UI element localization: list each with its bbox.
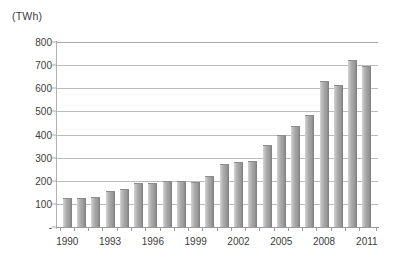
y-tick-label: 300 [0,152,52,163]
y-tick-mark [52,88,57,89]
gridline [57,111,378,112]
x-tick-mark [88,227,89,231]
x-tick-mark [202,227,203,231]
x-tick-mark [117,227,118,231]
x-tick-mark [259,227,260,231]
plot-area [57,42,378,227]
y-tick-label: 200 [0,175,52,186]
x-tick-mark [217,227,218,231]
gridline [57,181,378,182]
x-tick-mark [174,227,175,231]
x-tick-mark [145,227,146,231]
x-tick-label: 2011 [356,236,378,247]
y-tick-mark [52,157,57,158]
bar [191,182,200,227]
x-tick-mark [131,227,132,231]
x-tick-mark [231,227,232,231]
gridline [57,65,378,66]
x-tick-label: 1990 [56,236,78,247]
bar [320,81,329,227]
bar [106,191,115,227]
x-tick-label: 1993 [99,236,121,247]
bar [334,85,343,227]
x-tick-mark [245,227,246,231]
bar [177,181,186,227]
bar [291,126,300,227]
bar [134,183,143,227]
bar [163,181,172,227]
bar [234,162,243,227]
x-tick-mark [331,227,332,231]
bar [305,115,314,227]
y-tick-mark [52,42,57,43]
gridline [57,135,378,136]
y-tick-mark [52,134,57,135]
y-tick-label: 400 [0,129,52,140]
x-tick-mark [288,227,289,231]
x-tick-mark [188,227,189,231]
bar [120,189,129,227]
bar [362,66,371,227]
y-axis-tick-labels: 800700600500400300200100- [0,0,52,259]
bar [263,145,272,227]
x-tick-mark [302,227,303,231]
bar-chart: (TWh) 800700600500400300200100- 19901993… [0,0,394,259]
x-tick-label: 1999 [185,236,207,247]
y-tick-label: 500 [0,106,52,117]
y-tick-label: - [0,222,52,233]
bar [91,197,100,227]
bar [348,60,357,228]
x-tick-mark [102,227,103,231]
bar [220,164,229,227]
x-tick-mark [160,227,161,231]
y-tick-label: 800 [0,37,52,48]
gridline [57,42,378,43]
x-tick-mark [316,227,317,231]
bar [248,161,257,227]
x-tick-label: 1996 [142,236,164,247]
y-tick-mark [52,203,57,204]
x-tick-label: 2002 [227,236,249,247]
y-tick-mark [52,180,57,181]
x-tick-label: 2005 [270,236,292,247]
bar [277,135,286,227]
y-tick-mark [52,111,57,112]
bar [148,183,157,227]
x-tick-mark [345,227,346,231]
bar [63,198,72,227]
gridline [57,158,378,159]
y-tick-label: 100 [0,198,52,209]
y-tick-label: 700 [0,60,52,71]
x-tick-mark [74,227,75,231]
x-tick-mark [60,227,61,231]
bar [77,198,86,227]
y-tick-mark [52,227,57,228]
x-tick-mark [274,227,275,231]
y-tick-mark [52,65,57,66]
y-tick-label: 600 [0,83,52,94]
x-tick-label: 2008 [313,236,335,247]
x-tick-mark [376,227,377,231]
gridline [57,88,378,89]
x-tick-mark [359,227,360,231]
bar [205,176,214,227]
